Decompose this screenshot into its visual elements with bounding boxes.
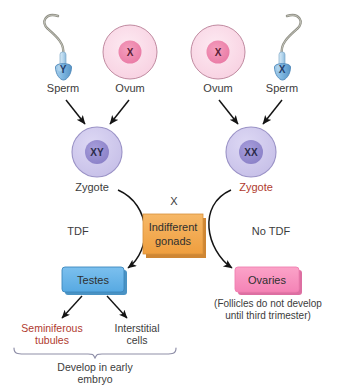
interstitial-cells-line2: cells — [126, 334, 147, 346]
sperm-label-left: Sperm — [47, 82, 79, 94]
testes-footer-line1: Develop in early — [57, 361, 132, 373]
ovaries-note-line1: (Follicles do not develop — [214, 298, 322, 310]
sperm-chromosome-x: X — [279, 64, 286, 75]
seminiferous-tubules-line1: Seminiferous — [21, 322, 82, 334]
zygote-chromosome-xy: XY — [90, 147, 103, 158]
ovum-chromosome-left: X — [127, 47, 134, 58]
testes-footer-line2: embryo — [77, 373, 112, 385]
sperm-label-right: Sperm — [266, 82, 298, 94]
arrow-ovum-to-zygote-right — [219, 100, 238, 124]
ovaries-note-line2: until third trimester) — [225, 310, 311, 322]
arrow-sperm-to-zygote-left — [66, 100, 85, 124]
ovum-label-left: Ovum — [115, 82, 144, 94]
zygote-chromosome-xx: XX — [244, 147, 257, 158]
seminiferous-tubules-line2: tubules — [35, 334, 69, 346]
gonads-box-face — [143, 214, 203, 254]
interstitial-cells-line1: Interstitial — [115, 322, 160, 334]
brace-testes-structures — [14, 348, 176, 358]
indifferent-gonads-label-line1: Indifferent — [149, 221, 198, 233]
sperm-tail-highlight — [44, 15, 63, 54]
arrow-testes-to-interstitial — [107, 296, 127, 318]
pathway-label-tdf: TDF — [67, 225, 88, 237]
arrow-testes-to-seminiferous — [62, 296, 82, 318]
sperm-chromosome-y: Y — [60, 64, 67, 75]
zygote-label-right: Zygote — [239, 181, 273, 193]
curve-zygote-xy-to-testes — [118, 190, 145, 268]
ovaries-label: Ovaries — [248, 274, 286, 286]
curve-zygote-xx-to-ovaries — [209, 190, 232, 268]
testes-label: Testes — [77, 274, 109, 286]
arrow-sperm-to-zygote-right — [263, 100, 282, 124]
pathway-label-no-tdf: No TDF — [252, 225, 290, 237]
ovum-label-right: Ovum — [203, 82, 232, 94]
sperm-cell-y — [44, 15, 71, 80]
indifferent-gonads-label-line2: gonads — [155, 235, 191, 247]
ovum-chromosome-right: X — [215, 47, 222, 58]
sperm-tail-highlight — [282, 15, 301, 54]
arrow-ovum-to-zygote-left — [110, 100, 129, 124]
cross-marker: X — [170, 195, 177, 207]
zygote-label-left: Zygote — [75, 181, 109, 193]
